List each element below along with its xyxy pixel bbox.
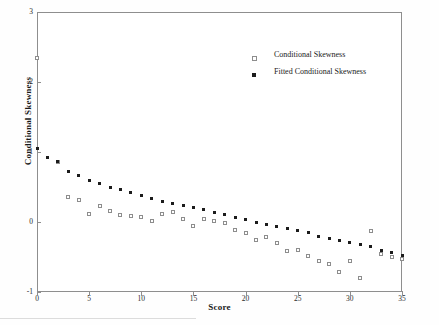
data-point — [348, 241, 351, 244]
data-point — [109, 186, 112, 189]
data-point — [400, 257, 404, 261]
data-point — [328, 237, 331, 240]
x-tick-mark — [350, 291, 351, 296]
data-point — [338, 239, 341, 242]
data-point — [223, 221, 227, 225]
data-point — [36, 147, 39, 150]
data-point — [171, 202, 174, 205]
data-point — [171, 210, 175, 214]
x-tick-mark — [246, 291, 247, 296]
data-point — [98, 182, 101, 185]
data-point — [359, 243, 362, 246]
data-point — [161, 200, 164, 203]
data-point — [380, 249, 383, 252]
data-point — [192, 206, 195, 209]
data-point — [379, 252, 383, 256]
figure: Conditional Skewness Score -10123 051015… — [0, 0, 439, 325]
data-point — [202, 217, 206, 221]
y-tick-label: 1 — [7, 147, 33, 156]
data-point — [66, 195, 70, 199]
data-point — [67, 170, 70, 173]
x-tick-mark — [37, 291, 38, 296]
data-point — [181, 217, 185, 221]
data-point — [212, 219, 216, 223]
data-point — [223, 213, 226, 216]
data-point — [296, 248, 300, 252]
data-point — [118, 213, 122, 217]
data-point — [390, 251, 393, 254]
data-point — [275, 225, 278, 228]
data-point — [254, 238, 258, 242]
data-point — [401, 254, 404, 257]
data-point — [244, 231, 248, 235]
data-point — [285, 249, 289, 253]
legend-label: Conditional Skewness — [274, 50, 345, 59]
data-point — [255, 221, 258, 224]
y-tick-mark — [37, 82, 41, 83]
data-point — [317, 259, 321, 263]
x-tick-mark — [193, 291, 194, 296]
x-axis-title: Score — [37, 302, 402, 312]
y-tick-mark — [37, 152, 41, 153]
data-point — [129, 191, 132, 194]
y-tick-label: 2 — [7, 77, 33, 86]
plot-area — [37, 12, 402, 292]
data-point — [35, 56, 39, 60]
y-tick-mark — [37, 222, 41, 223]
x-tick-mark — [402, 291, 403, 296]
data-point — [265, 223, 268, 226]
data-point — [182, 204, 185, 207]
data-point — [275, 241, 279, 245]
data-point — [140, 194, 143, 197]
data-point — [348, 259, 352, 263]
data-point — [317, 235, 320, 238]
data-point — [139, 215, 143, 219]
data-point — [264, 235, 268, 239]
data-point — [390, 255, 394, 259]
data-point — [56, 160, 59, 163]
data-point — [160, 212, 164, 216]
data-point — [244, 218, 247, 221]
data-point — [191, 224, 195, 228]
data-point — [87, 212, 91, 216]
data-point — [150, 219, 154, 223]
data-point — [77, 174, 80, 177]
data-point — [337, 270, 341, 274]
y-tick-label: 0 — [7, 217, 33, 226]
data-point — [358, 276, 362, 280]
data-point — [46, 156, 49, 159]
data-point — [369, 245, 372, 248]
data-point — [88, 179, 91, 182]
y-tick-mark — [37, 12, 41, 13]
data-point — [296, 229, 299, 232]
data-point — [129, 214, 133, 218]
data-point — [213, 211, 216, 214]
data-point — [307, 231, 310, 234]
data-point — [150, 197, 153, 200]
x-tick-mark — [141, 291, 142, 296]
data-point — [77, 198, 81, 202]
data-point — [98, 204, 102, 208]
data-point — [202, 208, 205, 211]
page-divider — [0, 318, 196, 319]
data-point — [119, 188, 122, 191]
data-point — [369, 229, 373, 233]
legend-label: Fitted Conditional Skewness — [274, 67, 366, 76]
y-axis-title: Conditional Skewness — [23, 31, 33, 211]
open-square-icon — [252, 56, 257, 61]
filled-square-icon — [252, 73, 256, 77]
y-tick-label: 3 — [7, 7, 33, 16]
data-point — [286, 227, 289, 230]
x-tick-mark — [89, 291, 90, 296]
data-point — [327, 262, 331, 266]
data-point — [108, 209, 112, 213]
data-point — [234, 216, 237, 219]
data-point — [233, 228, 237, 232]
x-tick-mark — [298, 291, 299, 296]
data-point — [306, 254, 310, 258]
